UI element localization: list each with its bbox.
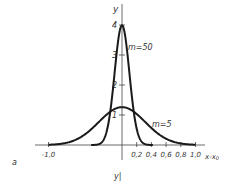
- x-tick-label: -1,0: [42, 151, 56, 159]
- y-axis-label: y: [112, 4, 119, 14]
- panel-label: a: [12, 158, 17, 167]
- y-tick-label: 4: [112, 21, 117, 30]
- bottom-label: y|: [113, 172, 121, 181]
- x-tick-label: 0,8: [175, 151, 187, 159]
- x-tick-label: 0,2: [131, 151, 143, 159]
- x-tick-label: 0,6: [161, 151, 173, 159]
- series-label-m50: m=50: [128, 43, 153, 52]
- gaussian-chart: -1,00,20,40,60,81,01234 y m=50 m=5 x-x0 …: [0, 0, 240, 181]
- x-tick-label: 1,0: [190, 151, 202, 159]
- x-tick-label: 0,4: [146, 151, 157, 159]
- series-label-m5: m=5: [152, 120, 172, 129]
- y-tick-label: 1: [112, 111, 117, 120]
- x-axis-label: x-x0: [204, 153, 219, 161]
